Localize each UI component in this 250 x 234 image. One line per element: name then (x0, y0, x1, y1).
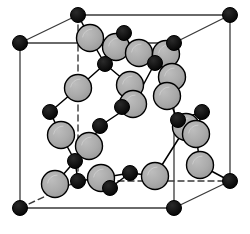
large-gray-atom (183, 121, 210, 148)
crystal-structure-figure (0, 0, 250, 234)
large-gray-atom (154, 83, 181, 110)
crystal-lattice-canvas (0, 0, 250, 234)
small-black-atom (171, 113, 186, 128)
small-black-atom (115, 100, 130, 115)
corner-atom (71, 8, 86, 23)
corner-atom (167, 36, 182, 51)
small-black-atom (123, 166, 138, 181)
large-gray-atom (65, 75, 92, 102)
small-black-atom (195, 105, 210, 120)
large-gray-atom (187, 152, 214, 179)
corner-atom (13, 201, 28, 216)
large-gray-atom (77, 25, 104, 52)
small-black-atom (103, 181, 118, 196)
small-black-atom (71, 174, 86, 189)
small-black-atom (68, 154, 83, 169)
small-black-atom (93, 119, 108, 134)
small-black-atom (43, 105, 58, 120)
small-black-atom (117, 26, 132, 41)
corner-atom (223, 8, 238, 23)
large-gray-atom (42, 171, 69, 198)
small-black-atom (148, 56, 163, 71)
corner-atom (167, 201, 182, 216)
large-gray-atom (48, 122, 75, 149)
small-black-atom (98, 57, 113, 72)
large-gray-atom (142, 163, 169, 190)
corner-atom (223, 174, 238, 189)
corner-atom (13, 36, 28, 51)
